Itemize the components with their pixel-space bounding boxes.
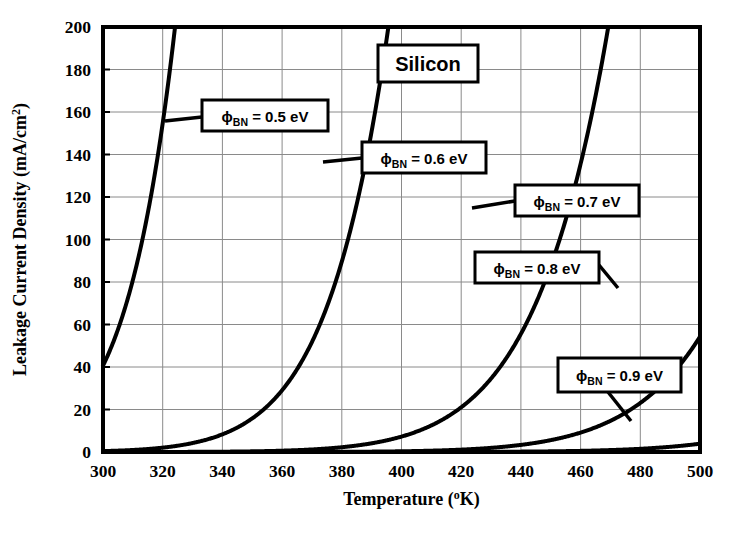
y-tick-label: 140 bbox=[65, 145, 92, 165]
phi-subscript: BN bbox=[545, 201, 560, 213]
x-tick-label: 460 bbox=[567, 461, 594, 481]
phi-value: = 0.5 eV bbox=[248, 108, 308, 125]
phi-symbol: ϕ bbox=[534, 193, 545, 210]
phi-symbol: ϕ bbox=[576, 367, 587, 384]
chart-title-label: Silicon bbox=[395, 53, 461, 75]
x-tick-label: 300 bbox=[90, 461, 117, 481]
phi-subscript: BN bbox=[392, 158, 407, 170]
y-tick-label: 80 bbox=[74, 272, 92, 292]
y-axis-title-main: Leakage Current Density (mA/cm bbox=[10, 115, 31, 376]
phi-subscript: BN bbox=[505, 268, 520, 280]
x-tick-label: 500 bbox=[687, 461, 714, 481]
chart-background bbox=[0, 0, 749, 539]
y-tick-label: 0 bbox=[82, 442, 91, 462]
y-tick-label: 20 bbox=[74, 400, 92, 420]
phi-value: = 0.8 eV bbox=[520, 260, 580, 277]
phi-subscript: BN bbox=[233, 116, 248, 128]
y-tick-label: 200 bbox=[65, 17, 92, 37]
x-tick-label: 340 bbox=[209, 461, 236, 481]
chart-canvas: 020406080100120140160180200 300320340360… bbox=[0, 0, 749, 539]
leakage-current-density-chart: 020406080100120140160180200 300320340360… bbox=[0, 0, 749, 539]
x-tick-label: 480 bbox=[627, 461, 654, 481]
y-tick-label: 60 bbox=[74, 315, 92, 335]
x-tick-label: 320 bbox=[150, 461, 177, 481]
phi-value: = 0.9 eV bbox=[602, 367, 662, 384]
phi-symbol: ϕ bbox=[381, 150, 392, 167]
chart-title-box: Silicon bbox=[378, 45, 478, 82]
x-tick-label: 420 bbox=[448, 461, 475, 481]
y-tick-label: 160 bbox=[65, 102, 92, 122]
phi-subscript: BN bbox=[587, 375, 602, 387]
x-tick-label: 360 bbox=[269, 461, 296, 481]
phi-value: = 0.6 eV bbox=[407, 150, 467, 167]
phi-value: = 0.7 eV bbox=[560, 193, 620, 210]
phi-symbol: ϕ bbox=[222, 108, 233, 125]
x-tick-label: 400 bbox=[388, 461, 415, 481]
phi-symbol: ϕ bbox=[494, 260, 505, 277]
y-tick-label: 180 bbox=[65, 60, 92, 80]
x-axis-title: Temperature (oK) bbox=[343, 488, 479, 510]
kelvin-symbol: K) bbox=[460, 489, 480, 510]
y-tick-label: 120 bbox=[65, 187, 92, 207]
x-tick-label: 440 bbox=[508, 461, 535, 481]
y-tick-label: 100 bbox=[65, 230, 92, 250]
y-axis-title: Leakage Current Density (mA/cm2) bbox=[9, 103, 31, 376]
callout-phi-08: ϕBN = 0.8 eV bbox=[475, 252, 618, 288]
y-tick-label: 40 bbox=[74, 357, 92, 377]
y-axis-close-paren: ) bbox=[10, 103, 31, 109]
x-axis-title-main: Temperature bbox=[343, 489, 447, 509]
x-tick-label: 380 bbox=[329, 461, 356, 481]
